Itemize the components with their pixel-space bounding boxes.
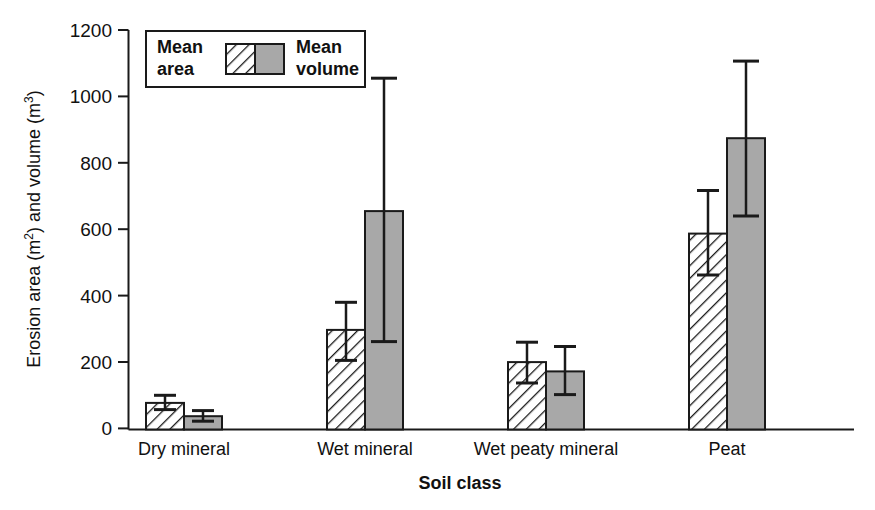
- svg-text:Erosion area (m2) and volume (: Erosion area (m2) and volume (m3): [22, 90, 44, 367]
- y-tick-label-400: 400: [80, 286, 112, 307]
- legend-label-mean-area-line1: Mean: [157, 37, 203, 57]
- x-category-label-wet-peaty-mineral: Wet peaty mineral: [474, 439, 619, 459]
- y-axis-title-prefix: Erosion area (m: [24, 240, 44, 368]
- legend-swatch-mean-volume: [255, 44, 284, 74]
- x-category-label-dry-mineral: Dry mineral: [138, 439, 230, 459]
- legend-label-mean-volume-line1: Mean: [296, 37, 342, 57]
- x-axis-title: Soil class: [418, 473, 501, 493]
- y-tick-label-600: 600: [80, 219, 112, 240]
- legend-label-mean-area-line2: area: [157, 59, 195, 79]
- y-axis-title: Erosion area (m2) and volume (m3): [22, 90, 44, 367]
- y-tick-label-1200: 1200: [70, 20, 112, 41]
- chart-legend: Mean area Mean volume: [146, 31, 365, 87]
- y-tick-label-1000: 1000: [70, 86, 112, 107]
- x-category-label-peat: Peat: [708, 439, 745, 459]
- x-axis-category-labels: Dry mineral Wet mineral Wet peaty minera…: [138, 439, 746, 459]
- y-axis: 1200 1000 800 600 400 200 0: [70, 20, 129, 439]
- y-tick-label-800: 800: [80, 153, 112, 174]
- y-axis-title-suffix: ): [24, 90, 44, 96]
- y-tick-label-200: 200: [80, 352, 112, 373]
- bar-chart-canvas: 1200 1000 800 600 400 200 0 Erosion area…: [0, 0, 875, 510]
- y-axis-title-middle: ) and volume (m: [24, 103, 44, 233]
- legend-label-mean-volume-line2: volume: [296, 59, 359, 79]
- x-category-label-wet-mineral: Wet mineral: [317, 439, 413, 459]
- chart-figure: 1200 1000 800 600 400 200 0 Erosion area…: [0, 0, 875, 510]
- y-axis-ticks: [118, 30, 129, 428]
- y-tick-label-0: 0: [101, 418, 112, 439]
- legend-swatch-mean-area: [226, 44, 255, 74]
